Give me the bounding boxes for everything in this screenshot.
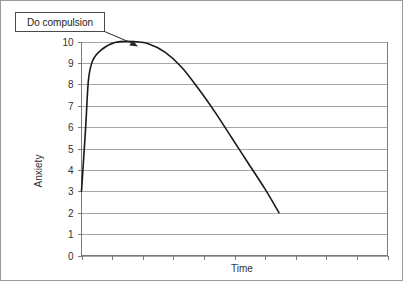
y-axis-title: Anxiety bbox=[33, 155, 44, 188]
anxiety-time-chart: 012345678910 Do compulsion Anxiety Time bbox=[1, 1, 403, 281]
y-tick-label: 3 bbox=[68, 186, 74, 197]
y-tick-label: 4 bbox=[68, 165, 74, 176]
gridlines-group bbox=[82, 43, 388, 257]
y-tickmark-group bbox=[78, 43, 82, 257]
y-tick-label: 0 bbox=[68, 251, 74, 262]
chart-figure: 012345678910 Do compulsion Anxiety Time bbox=[0, 0, 403, 281]
y-tick-label: 1 bbox=[68, 229, 74, 240]
y-tick-label: 9 bbox=[68, 58, 74, 69]
x-axis-title: Time bbox=[231, 263, 253, 274]
y-tick-label: 7 bbox=[68, 101, 74, 112]
y-tick-label: 2 bbox=[68, 208, 74, 219]
y-tick-label: 6 bbox=[68, 122, 74, 133]
y-tick-label: 8 bbox=[68, 79, 74, 90]
y-tick-label: 10 bbox=[62, 37, 74, 48]
y-tick-label: 5 bbox=[68, 144, 74, 155]
y-tick-label-group: 012345678910 bbox=[62, 37, 74, 262]
callout-label: Do compulsion bbox=[27, 17, 93, 28]
